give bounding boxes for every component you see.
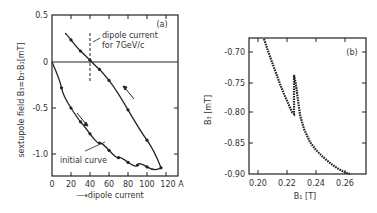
x-tick-labels-a: 0 20 40 60 80 100 120 A [49, 180, 184, 189]
svg-text:80: 80 [123, 180, 133, 189]
svg-text:20: 20 [66, 180, 76, 189]
plot-frame-b [249, 38, 366, 174]
annotation-line-2: for 7GeV/c [102, 41, 144, 50]
svg-text:0: 0 [49, 180, 54, 189]
svg-text:-0.85: -0.85 [224, 139, 245, 148]
panel-b: 0.20 0.22 0.24 0.26 -0.70 -0.75 -0.80 -0… [204, 38, 366, 201]
initial-curve-leader [85, 142, 105, 151]
panel-a: 0 20 40 60 80 100 120 A 0.5 0 -0.5 -1.0 … [17, 11, 184, 200]
y-tick-labels-b: -0.70 -0.75 -0.80 -0.85 -0.90 [224, 48, 245, 179]
svg-text:-0.70: -0.70 [224, 48, 245, 57]
svg-text:-0.5: -0.5 [32, 104, 48, 113]
initial-curve-label: initial curve [60, 156, 107, 165]
return-branch-line [66, 33, 161, 167]
svg-text:0.26: 0.26 [336, 179, 354, 188]
svg-text:-0.90: -0.90 [224, 170, 245, 179]
y-axis-title-b: B₃ [mT] [204, 95, 213, 125]
svg-text:0.5: 0.5 [35, 11, 48, 20]
svg-text:100: 100 [139, 180, 154, 189]
panel-label-b: (b) [346, 48, 357, 57]
annotation-leader [93, 38, 100, 42]
figure: 0 20 40 60 80 100 120 A 0.5 0 -0.5 -1.0 … [0, 0, 377, 213]
y-ticks-a [52, 108, 178, 154]
svg-text:40: 40 [85, 180, 95, 189]
y-axis-title-a: sextupole field B₃=b₃·B₁[mT] [17, 42, 26, 157]
svg-text:0: 0 [43, 58, 48, 67]
panel-label-a: (a) [156, 20, 167, 29]
annotation-line-1: dipole current [102, 31, 158, 40]
svg-text:60: 60 [104, 180, 114, 189]
svg-text:0.20: 0.20 [249, 179, 267, 188]
svg-text:-1.0: -1.0 [32, 150, 48, 159]
svg-text:-0.80: -0.80 [224, 108, 245, 117]
svg-text:0.22: 0.22 [278, 179, 296, 188]
svg-text:0.24: 0.24 [307, 179, 325, 188]
x-axis-title-a: ⟶dipole current [76, 191, 143, 200]
b3-vs-b1-trace [264, 39, 350, 174]
x-tick-labels-b: 0.20 0.22 0.24 0.26 [249, 179, 354, 188]
svg-text:-0.75: -0.75 [224, 79, 245, 88]
return-branch-points [69, 38, 148, 141]
y-tick-labels-a: 0.5 0 -0.5 -1.0 [32, 11, 48, 159]
arrow-up-icon [125, 88, 134, 99]
x-axis-title-b: B₁ [T] [294, 192, 316, 201]
y-ticks-b [249, 52, 366, 143]
svg-text:120 A: 120 A [160, 180, 184, 189]
